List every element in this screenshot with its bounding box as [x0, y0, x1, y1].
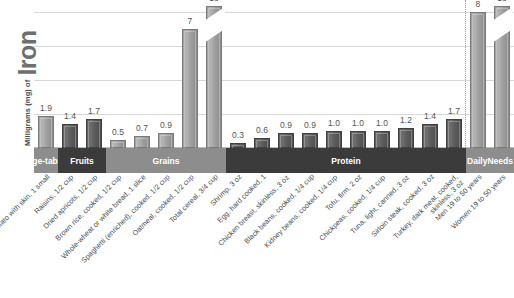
bar-value-label: 1.4 [424, 111, 436, 121]
category-label-daily-needs: DailyNeeds [466, 148, 514, 173]
iron-bar-chart: Milligrams (mg) of Iron 1.91.41.70.50.70… [0, 0, 514, 298]
category-band: Vege-tablesFruitsGrainsProteinDailyNeeds [34, 148, 514, 173]
bar-value-label: 8 [476, 0, 481, 9]
bar-fill [302, 133, 319, 148]
category-label-line: Grains [153, 156, 180, 166]
bar-fill [422, 124, 439, 148]
bar-fill [38, 116, 55, 148]
bar: 18 [494, 6, 511, 148]
bar-fill [470, 12, 487, 148]
bar-value-label: 1.0 [376, 118, 388, 128]
bar-value-label: 0.9 [280, 120, 292, 130]
bar: 8 [470, 12, 487, 148]
bar-value-label: 0.3 [232, 130, 244, 140]
category-label-vege-tables: Vege-tables [34, 148, 58, 173]
bar: 1.7 [86, 119, 103, 148]
bar-fill [158, 133, 175, 148]
y-axis-title: Milligrams (mg) of Iron [0, 0, 34, 148]
bar-value-label: 0.9 [304, 120, 316, 130]
bar: 1.0 [374, 131, 391, 148]
category-label-protein: Protein [226, 148, 466, 173]
bar: 1.4 [62, 124, 79, 148]
bar-value-label: 7 [188, 16, 193, 26]
bar: 1.0 [350, 131, 367, 148]
bar-value-label: 1.7 [448, 106, 460, 116]
bar: 1.0 [326, 131, 343, 148]
bar-value-label: 1.7 [88, 106, 100, 116]
bar: 1.7 [446, 119, 463, 148]
bar-value-label: 0.6 [256, 125, 268, 135]
bar-fill [326, 131, 343, 148]
x-axis-tick-labels: Baked potato with skin, 1 smallRaisins, … [0, 173, 514, 298]
category-label-line: Fruits [70, 156, 94, 166]
bar-fill [350, 131, 367, 148]
x-tick-label-line: skinless, 3 oz [397, 179, 465, 247]
bar-fill [254, 138, 271, 148]
x-tick-label: Baked potato with skin, 1 small [0, 173, 52, 250]
bar-fill [398, 128, 415, 148]
bar: 0.5 [110, 140, 127, 148]
bar: 0.9 [302, 133, 319, 148]
bar: 0.9 [278, 133, 295, 148]
bar: 18 [206, 6, 223, 148]
bar-fill [494, 6, 511, 148]
category-label-grains: Grains [106, 148, 226, 173]
bar-fill [206, 6, 223, 148]
bar-value-label: 18 [209, 0, 218, 3]
plot-area: 1.91.41.70.50.70.97180.30.60.90.91.01.01… [34, 2, 514, 148]
bar: 7 [182, 29, 199, 148]
category-label-line: Daily [467, 156, 487, 166]
category-label-fruits: Fruits [58, 148, 106, 173]
category-label-line: Protein [331, 156, 360, 166]
bar-value-label: 1.0 [328, 118, 340, 128]
bar-fill [278, 133, 295, 148]
bar-value-label: 1.9 [40, 103, 52, 113]
bar-fill [86, 119, 103, 148]
bar-value-label: 0.5 [112, 127, 124, 137]
bar-value-label: 1.4 [64, 111, 76, 121]
category-label-line: Vege- [22, 156, 45, 166]
category-label-line: Needs [487, 156, 513, 166]
bar-fill [62, 124, 79, 148]
bar-fill [110, 140, 127, 148]
bar: 0.7 [134, 136, 151, 148]
bar: 0.9 [158, 133, 175, 148]
bar-fill [134, 136, 151, 148]
bar-value-label: 0.9 [160, 120, 172, 130]
bar-fill [446, 119, 463, 148]
bar: 0.6 [254, 138, 271, 148]
bar: 1.2 [398, 128, 415, 148]
y-axis-unit-label: Milligrams (mg) of [23, 80, 32, 146]
bar-value-label: 18 [497, 0, 506, 3]
bar-fill [182, 29, 199, 148]
bar-value-label: 0.7 [136, 123, 148, 133]
bar-series: 1.91.41.70.50.70.97180.30.60.90.91.01.01… [34, 2, 514, 148]
bar: 1.9 [38, 116, 55, 148]
bar-value-label: 1.2 [400, 115, 412, 125]
bar: 1.4 [422, 124, 439, 148]
bar-value-label: 1.0 [352, 118, 364, 128]
bar-fill [374, 131, 391, 148]
